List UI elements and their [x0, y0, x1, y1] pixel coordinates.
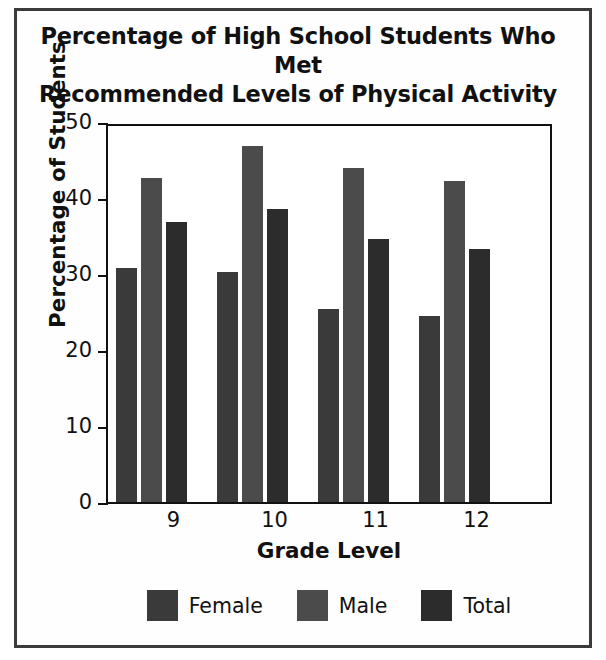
x-axis-tick-label-grade-12: 12	[450, 508, 504, 532]
legend-swatch-icon	[297, 590, 328, 621]
chart-title: Percentage of High School Students Who M…	[22, 22, 574, 108]
x-axis-tick-label-grade-9: 9	[147, 508, 201, 532]
bar-total-grade-12	[469, 249, 490, 502]
bar-total-grade-9	[166, 222, 187, 502]
y-axis-tick-label: 40	[46, 186, 92, 210]
bar-male-grade-11	[343, 168, 364, 502]
bar-female-grade-10	[217, 272, 238, 502]
plot-area	[106, 124, 552, 504]
x-axis-title: Grade Level	[106, 538, 552, 563]
bar-female-grade-9	[116, 268, 137, 502]
legend-swatch-icon	[421, 590, 452, 621]
legend-item-female: Female	[147, 590, 263, 621]
legend-label: Male	[339, 594, 388, 618]
y-axis-tick-label: 50	[46, 110, 92, 134]
bars-layer	[108, 126, 550, 502]
bar-total-grade-11	[368, 239, 389, 502]
chart-title-line-1: Percentage of High School Students Who M…	[22, 22, 574, 80]
x-axis-tick-label-grade-11: 11	[349, 508, 403, 532]
legend-item-male: Male	[297, 590, 388, 621]
bar-female-grade-11	[318, 309, 339, 502]
chart-title-line-2: Recommended Levels of Physical Activity	[22, 80, 574, 109]
y-axis-tick-label: 0	[46, 490, 92, 514]
bar-male-grade-12	[444, 181, 465, 502]
y-axis-title: Percentage of Students	[45, 20, 70, 350]
y-axis-tick-label: 10	[46, 414, 92, 438]
x-axis-tick-label-grade-10: 10	[248, 508, 302, 532]
legend-item-total: Total	[421, 590, 511, 621]
legend-label: Total	[463, 594, 511, 618]
figure-root: Percentage of High School Students Who M…	[0, 0, 606, 660]
legend-label: Female	[189, 594, 263, 618]
chart-legend: FemaleMaleTotal	[106, 590, 552, 621]
y-axis-tick-label: 30	[46, 262, 92, 286]
bar-total-grade-10	[267, 209, 288, 502]
bar-male-grade-10	[242, 146, 263, 502]
bar-female-grade-12	[419, 316, 440, 502]
bar-male-grade-9	[141, 178, 162, 502]
y-axis-tick-label: 20	[46, 338, 92, 362]
legend-swatch-icon	[147, 590, 178, 621]
